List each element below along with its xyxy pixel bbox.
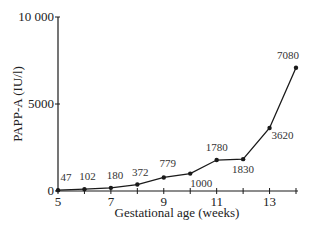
data-point-label: 102 [79, 170, 96, 182]
x-tick-label: 5 [55, 194, 62, 209]
data-point-marker [214, 158, 218, 162]
line-chart: 57911130500010 000 471021803727791000178… [0, 0, 312, 239]
data-point-label: 7080 [277, 49, 300, 61]
data-point-marker [82, 187, 86, 191]
x-axis-title: Gestational age (weeks) [115, 205, 240, 220]
data-point-marker [56, 188, 60, 192]
data-point-marker [188, 171, 192, 175]
data-point-marker [109, 186, 113, 190]
data-point-label: 180 [107, 169, 124, 181]
data-point-marker [135, 182, 139, 186]
data-point-marker [162, 175, 166, 179]
data-point-label: 1830 [232, 163, 255, 175]
y-axis-title: PAPP-A (IU/l) [10, 66, 25, 142]
point-labels: 4710218037277910001780183036207080 [61, 49, 300, 189]
y-tick-label: 5000 [28, 96, 54, 111]
x-tick-label: 13 [263, 194, 276, 209]
data-point-label: 372 [132, 166, 149, 178]
data-point-label: 1780 [206, 141, 229, 153]
data-point-marker [294, 66, 298, 70]
data-point-label: 3620 [272, 129, 295, 141]
data-point-marker [241, 157, 245, 161]
y-tick-label: 0 [48, 183, 55, 198]
data-point-label: 1000 [190, 177, 213, 189]
data-point-label: 47 [61, 171, 73, 183]
y-tick-label: 10 000 [18, 9, 54, 24]
data-point-label: 779 [160, 157, 177, 169]
